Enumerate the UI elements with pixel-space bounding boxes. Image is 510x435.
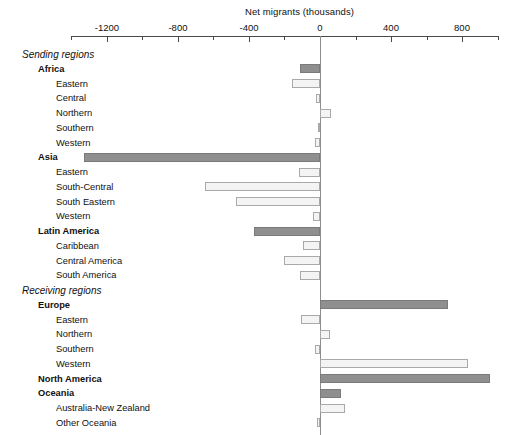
x-axis-minor-tick <box>284 36 285 40</box>
bar-eastern <box>292 79 320 88</box>
row-label-north-america: North America <box>38 374 102 385</box>
bar-north-america <box>320 374 490 383</box>
bar-africa <box>300 64 320 73</box>
row-label-central: Central <box>56 93 86 104</box>
row-label-south-eastern: South Eastern <box>56 197 115 208</box>
row-label-eastern: Eastern <box>56 315 88 326</box>
x-axis-tick-label: -800 <box>168 22 187 33</box>
row-label-caribbean: Caribbean <box>56 241 99 252</box>
row-label-latin-america: Latin America <box>38 226 99 237</box>
chart-axis-title: Net migrants (thousands) <box>245 6 354 17</box>
row-label-western: Western <box>56 359 90 370</box>
bar-asia <box>84 153 320 162</box>
x-axis-minor-tick <box>142 36 143 40</box>
row-label-western: Western <box>56 138 90 149</box>
row-label-eastern: Eastern <box>56 79 88 90</box>
x-axis-tick-label: -1200 <box>95 22 119 33</box>
bar-central <box>316 94 320 103</box>
bar-eastern <box>299 168 320 177</box>
row-label-south-central: South-Central <box>56 182 113 193</box>
bar-latin-america <box>254 227 320 236</box>
x-axis-minor-tick <box>427 36 428 40</box>
row-label-australia-new-zealand: Australia-New Zealand <box>56 403 150 414</box>
x-axis-major-tick <box>249 36 250 42</box>
bar-south-america <box>300 271 320 280</box>
row-label-southern: Southern <box>56 123 94 134</box>
row-label-eastern: Eastern <box>56 167 88 178</box>
bar-northern <box>320 330 330 339</box>
bar-europe <box>320 300 448 309</box>
bar-central-america <box>284 256 320 265</box>
x-axis-minor-tick <box>213 36 214 40</box>
row-label-other-oceania: Other Oceania <box>56 418 116 429</box>
x-axis-major-tick <box>107 36 108 42</box>
x-axis-minor-tick <box>356 36 357 40</box>
row-label-southern: Southern <box>56 344 94 355</box>
x-axis-minor-tick <box>71 36 72 40</box>
x-axis-tick-label: 0 <box>317 22 322 33</box>
bar-south-central <box>205 182 320 191</box>
row-label-receiving-regions: Receiving regions <box>22 285 102 296</box>
x-axis-major-tick <box>178 36 179 42</box>
bar-eastern <box>301 315 320 324</box>
bar-western <box>313 212 320 221</box>
bar-oceania <box>320 389 341 398</box>
row-label-northern: Northern <box>56 329 92 340</box>
bar-australia-new-zealand <box>320 404 345 413</box>
x-axis-major-tick <box>391 36 392 42</box>
row-label-europe: Europe <box>38 300 70 311</box>
x-axis-tick-label: 400 <box>383 22 399 33</box>
bar-south-eastern <box>236 197 320 206</box>
row-label-oceania: Oceania <box>38 388 74 399</box>
row-label-sending-regions: Sending regions <box>22 49 94 60</box>
row-label-africa: Africa <box>38 64 64 75</box>
x-axis-tick-label: 800 <box>454 22 470 33</box>
bar-northern <box>320 109 331 118</box>
row-label-central-america: Central America <box>56 256 122 267</box>
row-label-asia: Asia <box>38 152 58 163</box>
bar-other-oceania <box>317 418 320 427</box>
bar-western <box>320 359 468 368</box>
bar-southern <box>315 345 320 354</box>
bar-caribbean <box>303 241 320 250</box>
x-axis-minor-tick <box>498 36 499 40</box>
x-axis-major-tick <box>462 36 463 42</box>
row-label-western: Western <box>56 211 90 222</box>
bar-southern <box>318 123 321 132</box>
row-label-northern: Northern <box>56 108 92 119</box>
row-label-south-america: South America <box>56 270 116 281</box>
x-axis-tick-label: -400 <box>239 22 258 33</box>
bar-western <box>315 138 320 147</box>
